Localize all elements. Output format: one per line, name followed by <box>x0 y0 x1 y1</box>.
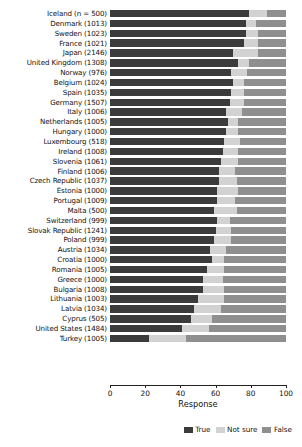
bar-segment-false <box>231 236 286 243</box>
category-label: Turkey (1005) <box>0 334 110 343</box>
chart-row: Poland (999) <box>0 235 302 244</box>
bar-segment-false <box>223 276 286 283</box>
bar-segment-not-sure <box>203 276 222 283</box>
bar-segment-false <box>258 39 286 46</box>
bar-track <box>110 197 286 204</box>
bar-segment-true <box>110 236 214 243</box>
category-label: Switzerland (999) <box>0 216 110 225</box>
chart-row: Norway (976) <box>0 68 302 77</box>
bar-segment-not-sure <box>249 10 267 17</box>
category-label: Slovak Republic (1241) <box>0 226 110 235</box>
x-axis-tick-label: 40 <box>176 389 185 398</box>
bar-track <box>110 59 286 66</box>
bar-track <box>110 79 286 86</box>
bar-segment-not-sure <box>214 236 232 243</box>
bar-track <box>110 286 286 293</box>
chart-row: Portugal (1009) <box>0 196 302 205</box>
bar-segment-not-sure <box>214 207 237 214</box>
bar-segment-not-sure <box>233 49 258 56</box>
chart-row: Italy (1006) <box>0 107 302 116</box>
chart-row: Spain (1035) <box>0 88 302 97</box>
bar-segment-true <box>110 49 233 56</box>
bar-track <box>110 69 286 76</box>
bar-segment-true <box>110 118 228 125</box>
bar-track <box>110 187 286 194</box>
bar-segment-false <box>237 177 286 184</box>
category-label: Finland (1006) <box>0 167 110 176</box>
bar-segment-false <box>224 295 286 302</box>
bar-segment-true <box>110 20 246 27</box>
bar-track <box>110 10 286 17</box>
bar-segment-true <box>110 266 207 273</box>
bar-segment-not-sure <box>194 305 220 312</box>
x-axis-tick <box>145 385 146 388</box>
bar-segment-false <box>235 197 286 204</box>
bar-segment-true <box>110 138 224 145</box>
bar-track <box>110 148 286 155</box>
category-label: Czech Republic (1037) <box>0 176 110 185</box>
chart-row: Lithuania (1003) <box>0 294 302 303</box>
bar-segment-true <box>110 227 216 234</box>
chart-row: Slovenia (1061) <box>0 157 302 166</box>
x-axis-tick <box>286 385 287 388</box>
legend-item: True <box>184 425 211 434</box>
bar-segment-true <box>110 39 244 46</box>
bar-segment-not-sure <box>226 108 242 115</box>
bar-segment-true <box>110 167 219 174</box>
chart-row: Belgium (1024) <box>0 78 302 87</box>
x-axis-tick-label: 60 <box>211 389 220 398</box>
bar-segment-true <box>110 158 221 165</box>
category-label: United States (1484) <box>0 324 110 333</box>
bar-segment-false <box>249 59 286 66</box>
bar-segment-false <box>230 217 286 224</box>
bar-track <box>110 39 286 46</box>
stacked-bar-chart: Iceland (n = 500)Denmark (1013)Sweden (1… <box>0 0 302 447</box>
bar-segment-not-sure <box>246 20 257 27</box>
legend-label: False <box>274 425 292 434</box>
bar-segment-not-sure <box>244 39 258 46</box>
category-label: Japan (2146) <box>0 48 110 57</box>
category-label: Sweden (1023) <box>0 29 110 38</box>
bar-segment-not-sure <box>219 167 235 174</box>
bar-track <box>110 315 286 322</box>
chart-legend: TrueNot sureFalse <box>110 425 292 434</box>
category-label: Estonia (1000) <box>0 186 110 195</box>
bar-segment-true <box>110 59 238 66</box>
bar-segment-true <box>110 128 226 135</box>
chart-row: Latvia (1034) <box>0 304 302 313</box>
bar-track <box>110 118 286 125</box>
bar-track <box>110 335 286 342</box>
category-label: Hungary (1000) <box>0 127 110 136</box>
bar-segment-true <box>110 295 198 302</box>
legend-swatch-icon <box>216 427 225 433</box>
bar-segment-not-sure <box>191 315 212 322</box>
bar-track <box>110 99 286 106</box>
bar-segment-not-sure <box>231 89 243 96</box>
chart-row: Sweden (1023) <box>0 29 302 38</box>
category-label: Luxembourg (518) <box>0 137 110 146</box>
chart-row: United Kingdom (1308) <box>0 58 302 67</box>
legend-label: True <box>195 425 210 434</box>
category-label: Croatia (1000) <box>0 255 110 264</box>
x-axis-tick-label: 0 <box>108 389 113 398</box>
bar-track <box>110 138 286 145</box>
bar-segment-false <box>235 167 286 174</box>
category-label: Latvia (1034) <box>0 304 110 313</box>
bar-track <box>110 128 286 135</box>
bar-track <box>110 207 286 214</box>
bar-segment-true <box>110 246 210 253</box>
bar-track <box>110 266 286 273</box>
bar-segment-false <box>238 118 286 125</box>
plot-area: Iceland (n = 500)Denmark (1013)Sweden (1… <box>0 9 302 384</box>
bar-segment-true <box>110 305 194 312</box>
category-label: United Kingdom (1308) <box>0 58 110 67</box>
bar-segment-true <box>110 276 203 283</box>
bar-segment-false <box>186 335 286 342</box>
bar-segment-true <box>110 10 249 17</box>
bar-segment-true <box>110 30 246 37</box>
bar-track <box>110 177 286 184</box>
legend-swatch-icon <box>184 427 193 433</box>
bar-segment-true <box>110 187 217 194</box>
bar-segment-not-sure <box>182 325 208 332</box>
bar-track <box>110 49 286 56</box>
